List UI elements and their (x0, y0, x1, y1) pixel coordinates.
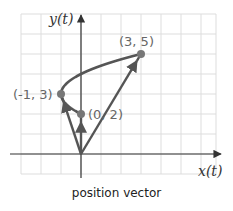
point-label-0-2: (0, 2) (88, 107, 123, 122)
diagram-canvas: y(t) x(t) (3, 5) (-1, 3) (0, 2) (0, 0, 233, 211)
y-axis-label: y(t) (48, 11, 73, 27)
diagram-caption: position vector (0, 186, 233, 200)
point-marker (77, 110, 85, 118)
position-vector-diagram: y(t) x(t) (3, 5) (-1, 3) (0, 2) position… (0, 0, 233, 211)
point-marker (57, 90, 65, 98)
x-axis-label: x(t) (198, 163, 222, 179)
point-label-neg1-3: (-1, 3) (13, 87, 53, 102)
point-label-3-5: (3, 5) (119, 34, 154, 49)
point-marker (137, 50, 145, 58)
